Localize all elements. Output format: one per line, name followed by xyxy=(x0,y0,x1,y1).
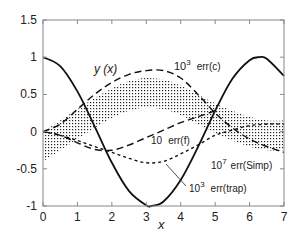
y-tick-label: 0.5 xyxy=(20,87,37,101)
y-tick-label: 0 xyxy=(30,125,37,139)
label-errsimp: 107err(Simp) xyxy=(211,157,272,171)
x-tick-label: 0 xyxy=(40,210,47,224)
series-err-simp-band xyxy=(43,78,284,161)
x-tick-label: 6 xyxy=(246,210,253,224)
y-tick-label: 1 xyxy=(30,50,37,64)
x-tick-label: 1 xyxy=(74,210,81,224)
label-errtrap: 103err(trap) xyxy=(189,180,247,194)
y-tick-label: -1 xyxy=(26,199,37,213)
x-axis-label: x xyxy=(157,217,165,232)
chart: 01234567-1-0.500.511.5 y (x) 103err(c) 1… xyxy=(0,0,300,241)
label-errc: 103err(c) xyxy=(174,58,221,72)
plot-area xyxy=(43,57,284,207)
x-tick-label: 5 xyxy=(212,210,219,224)
x-tick-label: 4 xyxy=(177,210,184,224)
x-tick-label: 3 xyxy=(143,210,150,224)
label-yx: y (x) xyxy=(93,62,117,76)
x-tick-label: 7 xyxy=(281,210,288,224)
label-errf: 10err(f) xyxy=(151,135,190,146)
y-tick-label: 1.5 xyxy=(20,13,37,27)
y-tick-label: -0.5 xyxy=(16,162,37,176)
x-tick-label: 2 xyxy=(109,210,116,224)
